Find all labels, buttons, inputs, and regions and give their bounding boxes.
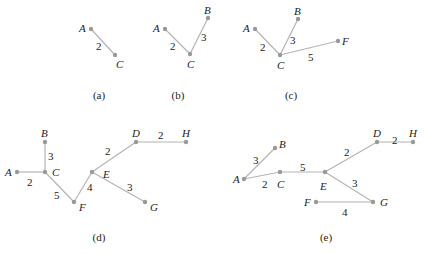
node-F [336,39,340,43]
node-B [206,16,210,20]
edge-C-F [45,172,74,202]
edge-E-D [92,142,136,172]
edge-weight-label: 2 [392,134,398,146]
node-G [143,200,147,204]
edge-weight-label: 2 [27,176,33,188]
edge-weight-label: 3 [290,34,296,46]
node-label: H [408,127,418,139]
edge-weight-label: 2 [96,40,102,52]
edge-weight-label: 3 [127,181,133,193]
node-H [184,140,188,144]
node-label: F [341,35,349,47]
edge-E-G [92,172,145,202]
panel-caption: (a) [93,89,106,102]
edge-weight-label: 5 [308,51,314,63]
node-C [188,52,192,56]
edge-weight-label: 5 [300,161,306,173]
panel-d: 2354223ACBFEDHG(d) [4,127,191,244]
panel-e: 3252234ABCEDHGF(e) [232,127,418,244]
node-E [90,170,94,174]
node-label: F [78,201,86,213]
node-label: A [78,22,86,34]
node-label: C [116,58,124,70]
edge-weight-label: 2 [158,129,164,141]
node-label: A [242,22,250,34]
node-label: E [319,180,327,192]
node-C [113,53,117,57]
node-label: D [131,127,140,139]
node-A [89,27,93,31]
edge-weight-label: 4 [342,206,348,218]
node-label: A [4,166,12,178]
mst-diagram: 2AC(a)23ACB(b)235ACBF(c)2354223ACBFEDHG(… [0,0,425,254]
panel-caption: (e) [320,231,333,244]
edge-weight-label: 3 [48,150,54,162]
node-label: A [232,173,240,185]
panel-caption: (d) [93,231,106,244]
node-label: B [294,5,301,17]
node-B [296,17,300,21]
node-F [72,200,76,204]
node-label: C [52,166,60,178]
edge-weight-label: 2 [344,146,350,158]
node-label: G [150,201,158,213]
node-label: B [279,138,286,150]
edge-weight-label: 5 [54,189,60,201]
edge-weight-label: 3 [352,177,358,189]
node-C [278,53,282,57]
edge-weight-label: 2 [262,178,268,190]
panel-b: 23ACB(b) [152,4,211,102]
edge-E-D [325,142,377,172]
edge-A-C [165,29,190,54]
node-label: C [277,178,285,190]
edge-weight-label: 2 [260,41,266,53]
edge-weight-label: 2 [170,40,176,52]
edge-A-C [91,29,115,55]
edge-A-C [255,29,280,55]
node-C [43,170,47,174]
edge-weight-label: 4 [87,181,93,193]
panel-caption: (c) [285,89,298,102]
node-label: C [187,58,195,70]
node-label: A [152,22,160,34]
edge-weight-label: 3 [201,31,207,43]
node-A [163,27,167,31]
node-E [323,170,327,174]
node-B [43,140,47,144]
node-label: C [277,59,285,71]
node-C [278,170,282,174]
panel-a: 2AC(a) [78,22,124,102]
node-label: B [204,4,211,16]
node-label: B [41,127,48,139]
panel-c: 235ACBF(c) [242,5,349,102]
node-label: G [380,196,388,208]
node-D [375,140,379,144]
node-A [15,170,19,174]
node-D [134,140,138,144]
edge-weight-label: 2 [105,145,111,157]
node-label: E [102,168,110,180]
panel-caption: (b) [172,89,185,102]
node-label: H [181,127,191,139]
node-A [242,177,246,181]
node-G [371,200,375,204]
node-A [253,27,257,31]
node-F [314,200,318,204]
node-H [411,140,415,144]
node-B [273,146,277,150]
node-label: F [303,196,311,208]
edge-E-G [325,172,373,202]
node-label: D [372,127,381,139]
edge-weight-label: 3 [253,154,259,166]
